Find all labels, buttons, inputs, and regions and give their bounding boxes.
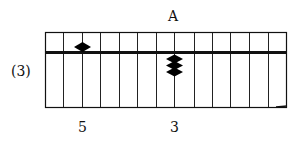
rods <box>64 33 269 107</box>
frame-corner-mark <box>276 106 287 107</box>
earth-bead-3 <box>166 68 183 77</box>
reckoning-beam <box>45 51 287 54</box>
rod-label-three: 3 <box>170 120 179 134</box>
abacus-frame <box>0 0 300 143</box>
rod-label-five: 5 <box>78 120 87 134</box>
heaven-bead <box>74 42 91 52</box>
